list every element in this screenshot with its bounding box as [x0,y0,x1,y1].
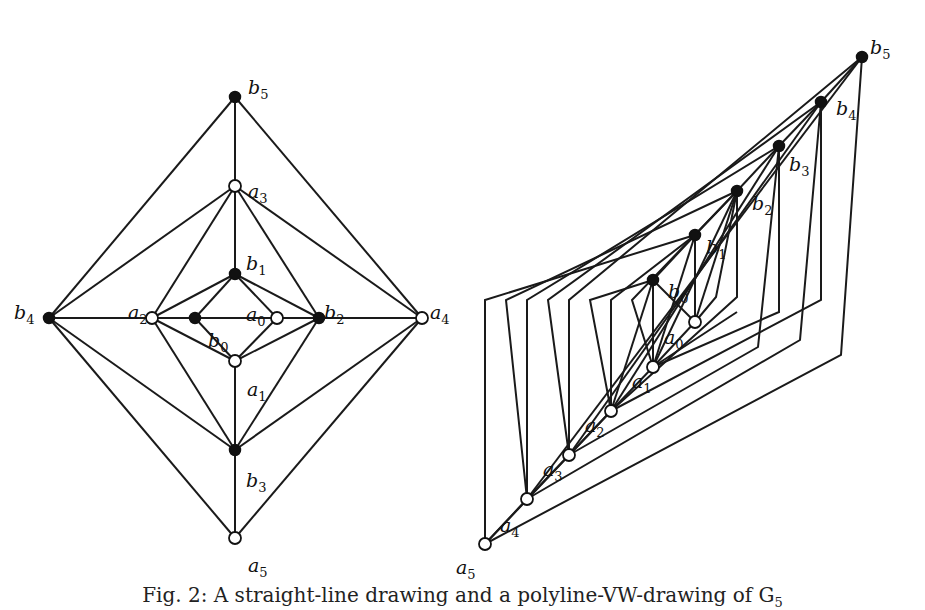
right-node-a4: a4 [500,493,533,540]
open-vertex-icon [229,355,241,367]
left-node-a5: a5 [229,532,268,580]
vertex-label: a1 [247,378,267,404]
vertex-label: b5 [248,76,268,102]
edge-b5-b4 [49,97,235,318]
vertex-label: b1 [246,252,266,278]
vertex-label: a5 [248,554,268,580]
vertex-label: a1 [632,370,652,396]
vertex-label: a2 [128,301,148,327]
left-node-b5: b5 [230,76,269,103]
left-drawing-nodes: b5a3b1b4a2b0a0b2a4a1b3a5 [14,76,450,580]
caption-subscript: 5 [775,595,783,610]
left-node-b2: b2 [314,301,345,327]
filled-vertex-icon [690,230,701,241]
edge-b4-a5 [49,318,235,538]
filled-vertex-icon [774,141,785,152]
filled-vertex-icon [230,92,241,103]
open-vertex-icon [479,538,491,550]
edge-a3-b4 [49,186,235,318]
right-node-a5: a5 [456,538,491,582]
left-node-a0: a0 [246,303,283,329]
vertex-label: b5 [870,36,890,62]
right-node-b5: b5 [857,36,891,63]
edge-b5-a4 [235,97,422,318]
vertex-label: b4 [836,97,856,123]
polyline-edge [548,102,821,455]
open-vertex-icon [416,312,428,324]
figure-caption: Fig. 2: A straight-line drawing and a po… [0,583,925,610]
edge-a3-a2 [152,186,235,318]
filled-vertex-icon [314,313,325,324]
edge-a2-b3 [152,318,235,450]
open-vertex-icon [146,312,158,324]
open-vertex-icon [521,493,533,505]
vertex-label: b3 [789,153,809,179]
open-vertex-icon [229,532,241,544]
vertex-label: b4 [14,301,34,327]
open-vertex-icon [647,361,659,373]
edge-b1-b0 [195,274,235,318]
filled-vertex-icon [732,186,743,197]
vertex-label: a0 [246,303,266,329]
open-vertex-icon [271,312,283,324]
edge-b1-a2 [152,274,235,318]
vertex-label: a5 [456,556,476,582]
left-drawing-edges [49,97,422,538]
filled-vertex-icon [44,313,55,324]
edge-a4-a5 [235,318,422,538]
caption-text: Fig. 2: A straight-line drawing and a po… [142,583,774,607]
open-vertex-icon [563,449,575,461]
left-node-a4: a4 [416,301,450,327]
filled-vertex-icon [648,275,659,286]
vertex-label: b2 [324,301,344,327]
open-vertex-icon [605,405,617,417]
filled-vertex-icon [190,313,201,324]
vertex-label: b3 [246,469,266,495]
left-node-a2: a2 [128,301,158,327]
vertex-label: a0 [664,326,684,352]
left-node-b4: b4 [14,301,55,327]
filled-vertex-icon [230,445,241,456]
vertex-label: a4 [430,301,450,327]
open-vertex-icon [689,316,701,328]
filled-vertex-icon [816,97,827,108]
vertex-label: b0 [208,329,228,355]
filled-vertex-icon [230,269,241,280]
filled-vertex-icon [857,52,868,63]
vertex-label: b2 [752,192,772,218]
edge-a4-b3 [235,318,422,450]
vertex-label: a4 [500,514,520,540]
open-vertex-icon [229,180,241,192]
